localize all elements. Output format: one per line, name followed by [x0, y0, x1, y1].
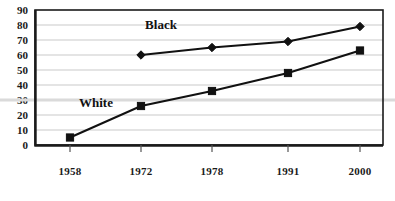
- data-point-marker: [137, 102, 144, 109]
- x-tick-label-1978: 1978: [200, 165, 223, 177]
- y-tick-label-80: 80: [17, 19, 29, 31]
- y-tick-label-40: 40: [17, 79, 29, 91]
- chart-canvas: 90 80 70 60 50 40 30 20 10 0: [0, 0, 395, 201]
- series-label-white: White: [79, 95, 113, 110]
- data-point-marker: [208, 87, 215, 94]
- x-tick-label-1972: 1972: [129, 165, 152, 177]
- x-tick-label-1991: 1991: [276, 165, 299, 177]
- data-point-marker: [356, 47, 363, 54]
- data-point-marker: [284, 69, 291, 76]
- y-tick-label-90: 90: [17, 4, 29, 16]
- y-tick-label-10: 10: [17, 124, 29, 136]
- y-tick-label-0: 0: [23, 139, 29, 151]
- y-tick-label-60: 60: [17, 49, 29, 61]
- y-tick-label-50: 50: [17, 64, 29, 76]
- series-label-black: Black: [145, 17, 178, 32]
- data-point-marker: [66, 134, 73, 141]
- y-tick-label-70: 70: [17, 34, 29, 46]
- line-chart: 90 80 70 60 50 40 30 20 10 0: [0, 0, 395, 201]
- y-tick-label-20: 20: [17, 109, 29, 121]
- x-tick-label-2000: 2000: [348, 165, 371, 177]
- x-tick-label-1958: 1958: [58, 165, 81, 177]
